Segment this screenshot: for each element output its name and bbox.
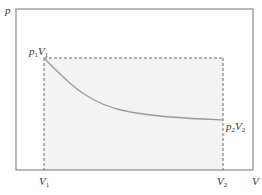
y-axis-label: p xyxy=(5,5,11,16)
x-axis-label: V xyxy=(252,176,259,187)
tick-v1: V1 xyxy=(39,176,49,189)
end-point-label: p2V2 xyxy=(226,121,245,134)
start-point-label: p1V1 xyxy=(29,46,48,59)
pv-diagram xyxy=(0,0,262,195)
tick-v2: V2 xyxy=(217,176,227,189)
shaded-region xyxy=(44,58,223,170)
